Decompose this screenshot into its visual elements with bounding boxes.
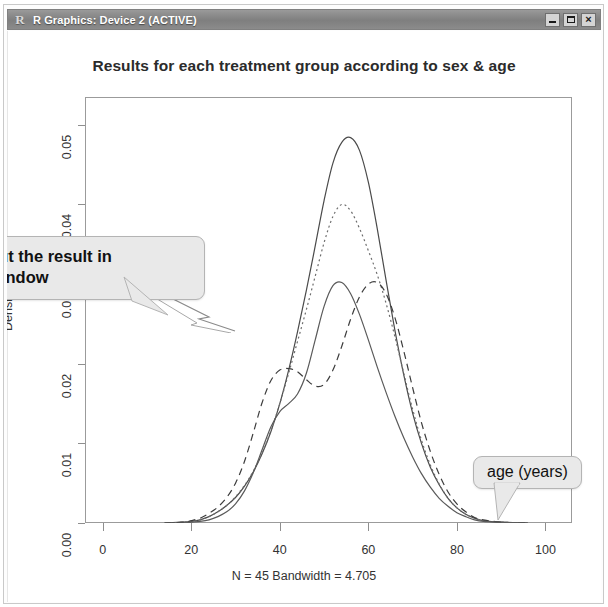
x-tick-label: 20 <box>171 543 211 557</box>
callout-age-label: age (years) <box>473 456 582 489</box>
graphics-canvas: Results for each treatment group accordi… <box>7 31 601 602</box>
x-tick <box>368 523 369 531</box>
callout-age-text: age (years) <box>487 463 568 480</box>
y-tick-label: 0.02 <box>60 363 74 409</box>
y-tick <box>78 443 85 444</box>
x-tick-label: 40 <box>260 543 300 557</box>
callout-right-tail <box>490 482 526 522</box>
plot-title: Results for each treatment group accordi… <box>7 57 601 75</box>
close-button[interactable]: × <box>581 13 596 27</box>
callout-left-tail <box>122 275 170 319</box>
y-tick <box>78 523 85 524</box>
window-title: R Graphics: Device 2 (ACTIVE) <box>33 14 197 26</box>
x-tick-label: 80 <box>437 543 477 557</box>
y-tick <box>78 125 85 126</box>
y-tick <box>78 364 85 365</box>
minimize-icon <box>549 21 556 23</box>
y-tick-label: 0.00 <box>60 522 74 568</box>
minimize-button[interactable] <box>545 13 560 27</box>
window-titlebar[interactable]: R R Graphics: Device 2 (ACTIVE) × <box>7 9 601 30</box>
x-tick-label: 0 <box>83 543 123 557</box>
callout-rgui-hint: eck out the result in Gui window <box>7 236 205 300</box>
x-tick <box>191 523 192 531</box>
y-tick <box>78 204 85 205</box>
x-tick <box>280 523 281 531</box>
window-controls: × <box>545 13 596 27</box>
callout-window-word: window <box>7 268 49 286</box>
callout-line-1: eck out the result in <box>7 246 192 267</box>
x-tick <box>103 523 104 531</box>
x-tick-label: 60 <box>348 543 388 557</box>
r-graphics-window: R R Graphics: Device 2 (ACTIVE) × Result… <box>0 0 608 607</box>
close-icon: × <box>585 14 591 25</box>
maximize-icon <box>567 16 575 23</box>
y-tick-label: 0.05 <box>60 124 74 170</box>
y-tick-label: 0.01 <box>60 442 74 488</box>
x-tick <box>457 523 458 531</box>
x-axis-caption: N = 45 Bandwidth = 4.705 <box>7 569 601 583</box>
x-tick-label: 100 <box>525 543 565 557</box>
maximize-button[interactable] <box>563 13 578 27</box>
r-logo-icon: R <box>12 12 28 28</box>
